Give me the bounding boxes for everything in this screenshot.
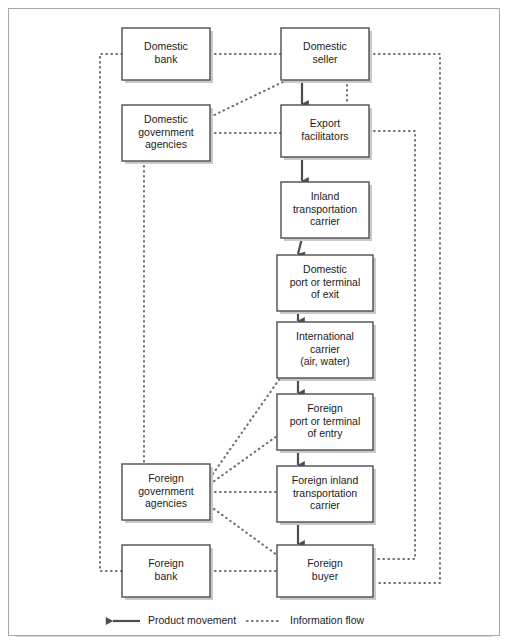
node-domestic-gov-agencies: Domesticgovernmentagencies <box>122 105 213 164</box>
node-label-foreign-buyer: buyer <box>312 570 339 582</box>
node-label-foreign-buyer: Foreign <box>307 557 343 569</box>
node-label-international-carrier: (air, water) <box>300 355 350 367</box>
node-label-foreign-gov-agencies: agencies <box>145 497 187 509</box>
node-label-foreign-bank: bank <box>155 570 179 582</box>
node-inland-transport-carrier: Inlandtransportationcarrier <box>281 182 372 241</box>
info-flow-foreign-gov-agencies-to-foreign-port-entry <box>210 436 277 484</box>
info-flow-domestic-gov-agencies-to-domestic-seller <box>210 80 287 117</box>
node-label-foreign-inland-carrier: carrier <box>310 499 340 511</box>
info-flow-domestic-seller-to-foreign-buyer <box>369 54 440 583</box>
figure-container: DomesticbankDomesticsellerDomesticgovern… <box>0 0 508 644</box>
node-label-domestic-port-exit: Domestic <box>303 263 347 275</box>
node-foreign-port-entry: Foreignport or terminalof entry <box>277 394 376 453</box>
node-label-domestic-gov-agencies: agencies <box>145 138 187 150</box>
info-flow-foreign-gov-agencies-to-foreign-buyer <box>210 506 277 555</box>
node-label-domestic-bank: Domestic <box>144 40 188 52</box>
node-label-domestic-bank: bank <box>155 53 179 65</box>
node-foreign-gov-agencies: Foreigngovernmentagencies <box>122 464 213 523</box>
node-label-inland-transport-carrier: transportation <box>293 203 357 215</box>
flowchart-diagram: DomesticbankDomesticsellerDomesticgovern… <box>0 0 508 644</box>
node-label-inland-transport-carrier: carrier <box>310 215 340 227</box>
info-flow-foreign-gov-agencies-to-international-carrier <box>210 374 283 478</box>
node-label-export-facilitators: facilitators <box>301 130 348 142</box>
node-label-foreign-gov-agencies: Foreign <box>148 472 184 484</box>
node-label-foreign-port-entry: Foreign <box>307 402 343 414</box>
node-label-export-facilitators: Export <box>310 117 340 129</box>
node-label-international-carrier: carrier <box>310 343 340 355</box>
node-label-domestic-port-exit: port or terminal <box>290 276 361 288</box>
node-international-carrier: Internationalcarrier(air, water) <box>277 322 376 381</box>
legend: Product movement Information flow <box>16 614 492 636</box>
node-export-facilitators: Exportfacilitators <box>281 105 372 160</box>
node-label-foreign-inland-carrier: transportation <box>293 487 357 499</box>
node-label-foreign-gov-agencies: government <box>138 485 194 497</box>
node-label-inland-transport-carrier: Inland <box>311 190 340 202</box>
node-foreign-buyer: Foreignbuyer <box>277 545 376 600</box>
node-label-international-carrier: International <box>296 330 354 342</box>
node-label-foreign-port-entry: of entry <box>307 427 343 439</box>
legend-product-label: Product movement <box>148 614 236 626</box>
node-label-domestic-seller: Domestic <box>303 40 347 52</box>
node-domestic-bank: Domesticbank <box>122 28 213 83</box>
node-label-foreign-inland-carrier: Foreign inland <box>292 474 359 486</box>
info-flow-domestic-bank-to-foreign-bank <box>100 54 122 571</box>
node-domestic-port-exit: Domesticport or terminalof exit <box>277 255 376 314</box>
node-label-domestic-gov-agencies: government <box>138 126 194 138</box>
node-label-domestic-gov-agencies: Domestic <box>144 113 188 125</box>
node-label-foreign-port-entry: port or terminal <box>290 415 361 427</box>
legend-information-label: Information flow <box>290 614 365 626</box>
node-domestic-seller: Domesticseller <box>281 28 372 83</box>
node-layer: DomesticbankDomesticsellerDomesticgovern… <box>122 28 376 600</box>
node-label-domestic-port-exit: of exit <box>311 288 339 300</box>
node-foreign-inland-carrier: Foreign inlandtransportationcarrier <box>277 466 376 525</box>
node-label-foreign-bank: Foreign <box>148 557 184 569</box>
node-label-domestic-seller: seller <box>312 53 338 65</box>
node-foreign-bank: Foreignbank <box>122 545 213 600</box>
